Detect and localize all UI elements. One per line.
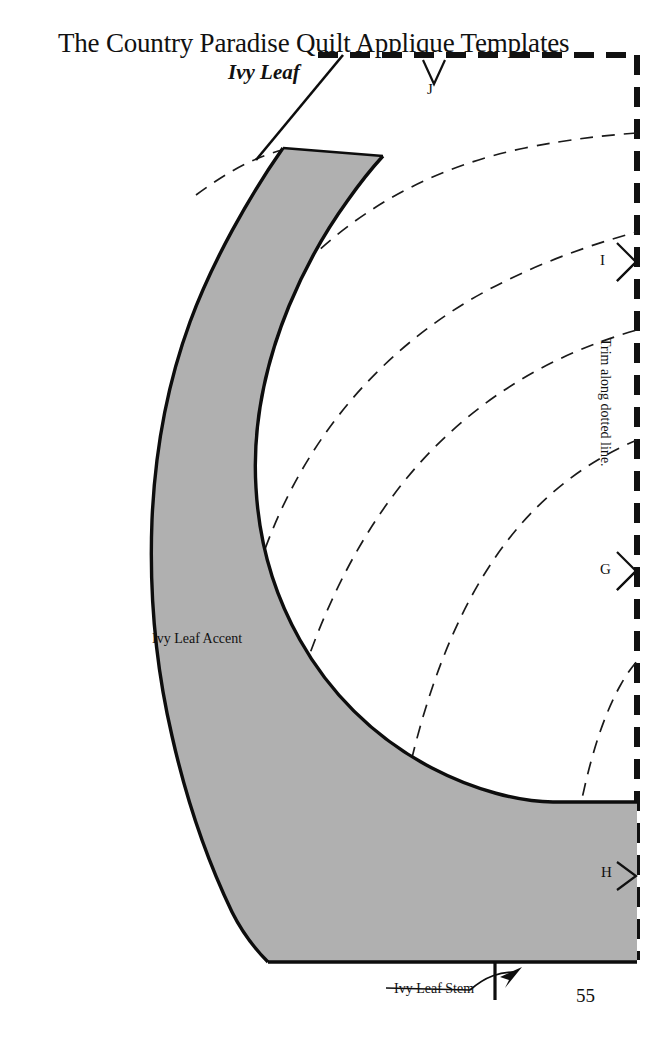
page-number: 55 — [576, 986, 595, 1005]
ivy-leaf-crescent-shape — [151, 148, 637, 962]
page-subtitle: Ivy Leaf — [228, 62, 300, 83]
page-title: The Country Paradise Quilt Applique Temp… — [58, 30, 569, 57]
template-drawing-canvas — [0, 0, 663, 1051]
marker-label-j: J — [427, 82, 433, 97]
marker-g-chevron-upper-icon — [617, 552, 636, 590]
marker-label-i: I — [600, 253, 605, 268]
curved-arrow-head-icon — [500, 967, 522, 988]
marker-i-chevron-lower-icon — [617, 262, 636, 281]
marker-label-g: G — [600, 562, 611, 577]
quilt-template-page: The Country Paradise Quilt Applique Temp… — [0, 0, 663, 1051]
marker-i-arms-icon — [617, 243, 636, 281]
label-trim-instruction: Trim along dotted line. — [598, 338, 612, 467]
label-ivy-leaf-accent: Ivy Leaf Accent — [152, 632, 242, 646]
marker-i-chevron-upper-icon — [617, 243, 636, 281]
marker-g-chevron-lower-icon — [617, 571, 636, 590]
marker-label-h: H — [601, 865, 612, 880]
label-ivy-leaf-stem: Ivy Leaf Stem — [394, 982, 474, 996]
